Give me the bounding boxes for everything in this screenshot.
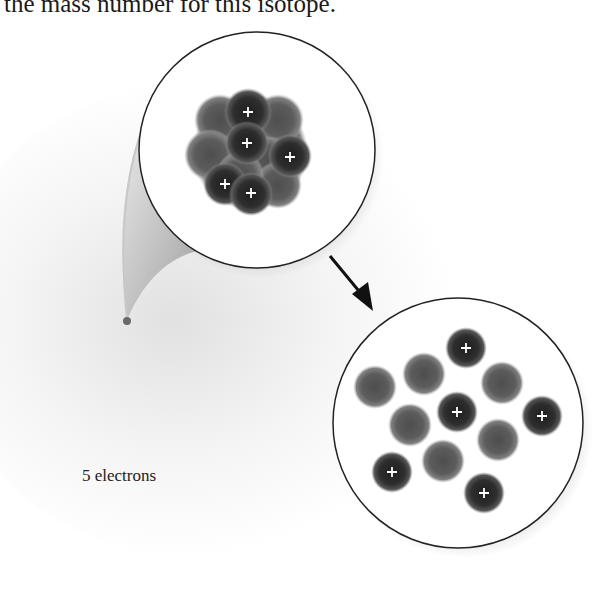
neutron <box>402 352 446 396</box>
neutron <box>353 365 397 409</box>
neutron <box>388 403 432 447</box>
neutron <box>421 439 465 483</box>
atom-diagram <box>0 0 602 591</box>
neutron <box>480 361 524 405</box>
neutron <box>476 418 520 462</box>
atom-dot <box>123 317 131 325</box>
arrow-icon <box>330 256 373 311</box>
electron-count-label: 5 electrons <box>82 466 156 486</box>
